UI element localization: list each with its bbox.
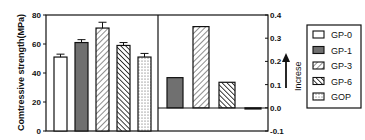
increase-arrow-icon — [282, 53, 290, 88]
legend-label: GP-3 — [331, 61, 352, 71]
left-tick-label: 60 — [32, 40, 41, 49]
increase-bar-gp-6 — [219, 82, 235, 108]
increase-bar-gop — [245, 108, 261, 109]
left-tick-label: 40 — [32, 69, 41, 78]
bar-gp-3 — [96, 22, 109, 131]
left-tick-label: 0 — [37, 127, 42, 136]
bar-gp-1 — [75, 40, 88, 131]
right-tick-label: 0.2 — [270, 57, 282, 66]
left-bars — [54, 22, 151, 131]
right-bars — [167, 27, 261, 109]
legend-swatch — [313, 93, 324, 100]
y-axis-label: Comtressive strength(MPa) — [16, 14, 26, 131]
increase-bar-gp-3 — [193, 27, 209, 108]
right-tick-label: -0.1 — [270, 127, 284, 136]
right-tick-label: 0.3 — [270, 34, 282, 43]
legend-label: GP-1 — [331, 46, 352, 56]
legend-label: GP-0 — [331, 30, 352, 40]
right-tick-label: 0.0 — [270, 104, 282, 113]
legend-item-gp-6: GP-6 — [313, 77, 352, 87]
chart-canvas: Comtressive strength(MPa) 020406080 -0.1… — [0, 0, 365, 140]
legend-item-gp-3: GP-3 — [313, 61, 352, 71]
bar-gp-0 — [54, 54, 67, 131]
increase-label: Increse — [293, 61, 303, 91]
right-tick-label: 0.1 — [270, 81, 282, 90]
legend-item-gp-1: GP-1 — [313, 46, 352, 56]
bar-gop — [138, 53, 151, 131]
legend-swatch — [313, 78, 324, 85]
bar-gp-6 — [117, 43, 130, 131]
increase-bar-gp-1 — [167, 78, 183, 108]
legend-swatch — [313, 47, 324, 54]
left-tick-label: 20 — [32, 98, 41, 107]
legend-swatch — [313, 62, 324, 69]
left-tick-label: 80 — [32, 11, 41, 20]
legend-item-gop: GOP — [313, 92, 351, 102]
legend-swatch — [313, 31, 324, 38]
legend-label: GOP — [331, 92, 351, 102]
left-y-ticks: 020406080 — [32, 11, 46, 136]
right-tick-label: 0.4 — [270, 11, 282, 20]
legend-label: GP-6 — [331, 77, 352, 87]
legend-item-gp-0: GP-0 — [313, 30, 352, 40]
